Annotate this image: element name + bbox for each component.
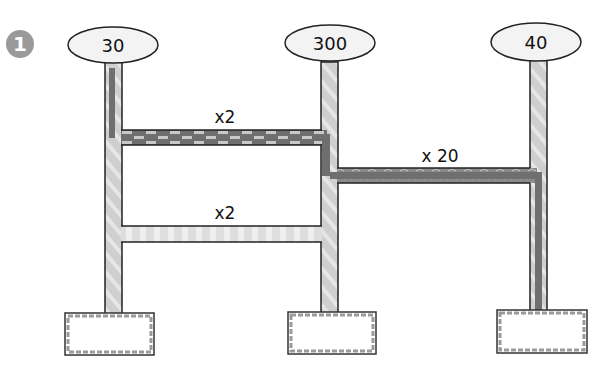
target-box-right: [497, 310, 587, 353]
edge-label-lower: x2: [215, 203, 236, 223]
step-number-text: 1: [13, 32, 27, 56]
source-label-30: 30: [102, 35, 125, 56]
source-label-300: 300: [313, 33, 347, 54]
target-box-left: [65, 313, 154, 355]
step-number-badge: 1: [6, 30, 34, 58]
edge-label-top: x2: [215, 107, 236, 127]
top-connector-pipe: [121, 130, 327, 145]
middle-pipe: [321, 62, 338, 314]
edge-label-right: x 20: [421, 146, 458, 166]
target-box-middle: [288, 312, 376, 354]
lower-connector-pipe: [121, 226, 322, 242]
source-node-30: 30: [68, 27, 158, 63]
source-label-40: 40: [525, 32, 548, 53]
source-node-40: 40: [491, 23, 581, 61]
diagram-canvas: 1 30 300: [0, 0, 614, 383]
source-node-300: 300: [285, 25, 375, 61]
